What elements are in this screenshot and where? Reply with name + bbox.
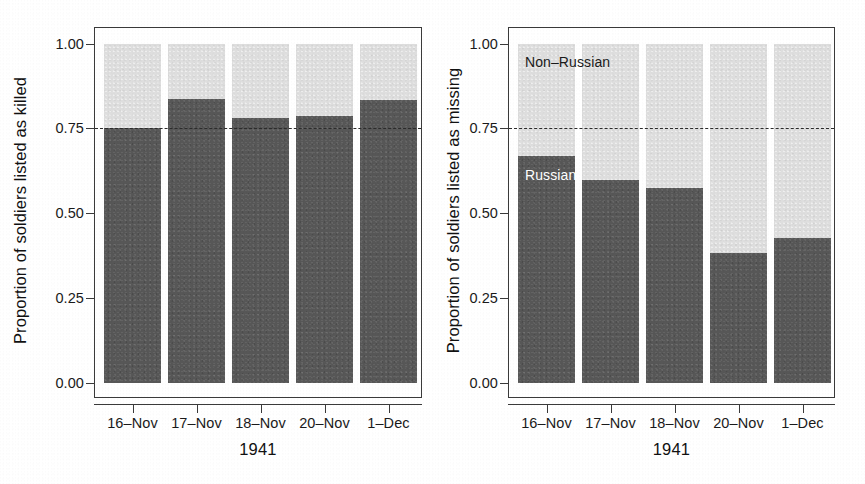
- bar-column: [360, 44, 417, 383]
- x-tick-label-2: 18–Nov: [649, 415, 700, 431]
- x-tick-label-4: 1–Dec: [781, 415, 823, 431]
- y-tick-0-25: [86, 298, 95, 299]
- bar-segment-russian: [582, 180, 639, 383]
- bar-segment-non-russian: [710, 44, 767, 253]
- bar-segment-russian: [646, 188, 703, 383]
- y-tick-label-1-00: 1.00: [469, 36, 498, 52]
- bar-column: [168, 44, 225, 383]
- x-axis-line-right: [508, 404, 835, 405]
- x-tick-2: [675, 404, 676, 413]
- bar-segment-non-russian: [296, 44, 353, 116]
- x-axis-line-left: [94, 404, 422, 405]
- y-tick-label-0-25: 0.25: [55, 290, 84, 306]
- y-tick-0-75: [500, 128, 509, 129]
- bar-segment-non-russian: [774, 44, 831, 238]
- x-tick-label-1: 17–Nov: [171, 415, 222, 431]
- y-tick-0-00: [500, 383, 509, 384]
- x-tick-label-0: 16–Nov: [521, 415, 572, 431]
- bar-column: [646, 44, 703, 383]
- bar-segment-russian: [296, 116, 353, 383]
- y-tick-label-0-00: 0.00: [469, 375, 498, 391]
- x-tick-1: [197, 404, 198, 413]
- bar-column: [518, 44, 575, 383]
- y-tick-label-0-50: 0.50: [469, 205, 498, 221]
- y-tick-label-0-75: 0.75: [469, 120, 498, 136]
- reference-line-075: [95, 128, 421, 129]
- x-tick-label-3: 20–Nov: [299, 415, 350, 431]
- y-tick-0-50: [500, 213, 509, 214]
- bar-segment-non-russian: [646, 44, 703, 188]
- y-tick-0-00: [86, 383, 95, 384]
- bar-column: [582, 44, 639, 383]
- y-tick-0-50: [86, 213, 95, 214]
- x-tick-4: [803, 404, 804, 413]
- bar-segment-non-russian: [232, 44, 289, 118]
- x-axis-title-right: 1941: [508, 440, 835, 459]
- x-tick-label-0: 16–Nov: [107, 415, 158, 431]
- annotation-non-russian: Non–Russian: [525, 54, 610, 70]
- x-tick-label-4: 1–Dec: [367, 415, 409, 431]
- bar-column: [710, 44, 767, 383]
- plot-area-killed: 1.00 0.75 0.50 0.25 0.00: [94, 27, 422, 398]
- figure: Proportion of soldiers listed as killed …: [0, 0, 865, 484]
- bar-column: [104, 44, 161, 383]
- y-tick-label-0-25: 0.25: [469, 290, 498, 306]
- bar-segment-russian: [168, 99, 225, 383]
- y-axis-title-right: Proportion of soldiers listed as missing: [441, 0, 467, 420]
- x-tick-label-3: 20–Nov: [713, 415, 764, 431]
- y-tick-label-0-75: 0.75: [55, 120, 84, 136]
- bar-segment-russian: [518, 156, 575, 383]
- panel-missing: Proportion of soldiers listed as missing…: [433, 0, 865, 484]
- x-tick-4: [389, 404, 390, 413]
- y-tick-0-25: [500, 298, 509, 299]
- bar-segment-russian: [710, 253, 767, 383]
- bar-column: [774, 44, 831, 383]
- x-tick-3: [739, 404, 740, 413]
- x-tick-2: [261, 404, 262, 413]
- y-tick-label-1-00: 1.00: [55, 36, 84, 52]
- y-axis-title-right-text: Proportion of soldiers listed as missing: [445, 67, 464, 353]
- bar-segment-russian: [774, 238, 831, 383]
- x-tick-label-1: 17–Nov: [585, 415, 636, 431]
- bar-segment-non-russian: [104, 44, 161, 128]
- y-tick-label-0-00: 0.00: [55, 375, 84, 391]
- y-tick-0-75: [86, 128, 95, 129]
- x-tick-label-2: 18–Nov: [235, 415, 286, 431]
- y-tick-1-00: [500, 44, 509, 45]
- x-axis-title-left: 1941: [94, 440, 422, 459]
- y-tick-label-0-50: 0.50: [55, 205, 84, 221]
- bar-segment-russian: [232, 118, 289, 383]
- x-tick-0: [547, 404, 548, 413]
- bar-segment-russian: [104, 128, 161, 383]
- y-axis-title-left: Proportion of soldiers listed as killed: [8, 0, 34, 420]
- x-tick-3: [325, 404, 326, 413]
- y-axis-title-left-text: Proportion of soldiers listed as killed: [12, 76, 31, 343]
- bar-segment-non-russian: [168, 44, 225, 99]
- bar-segment-russian: [360, 100, 417, 383]
- plot-area-missing: 1.00 0.75 0.50 0.25 0.00: [508, 27, 835, 398]
- y-tick-1-00: [86, 44, 95, 45]
- reference-line-075: [509, 128, 834, 129]
- x-tick-0: [133, 404, 134, 413]
- bar-segment-non-russian: [360, 44, 417, 100]
- panel-killed: Proportion of soldiers listed as killed …: [0, 0, 432, 484]
- x-tick-1: [611, 404, 612, 413]
- bar-column: [232, 44, 289, 383]
- bar-column: [296, 44, 353, 383]
- annotation-russian: Russian: [525, 167, 576, 183]
